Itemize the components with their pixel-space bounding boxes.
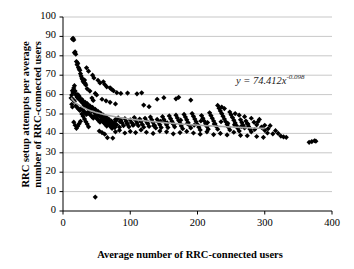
data-point <box>146 104 151 109</box>
trendline-equation-label: y = 74.412x-0.098 <box>236 73 305 86</box>
data-point <box>161 95 166 100</box>
x-axis-title: Average number of RRC-connected users <box>40 249 340 260</box>
data-point <box>261 135 266 140</box>
y-tick-label: 30 <box>29 146 56 157</box>
data-point <box>177 130 182 135</box>
data-point <box>231 130 236 135</box>
y-tick-label: 50 <box>29 107 56 118</box>
data-point <box>122 130 127 135</box>
data-point <box>245 133 250 138</box>
x-tick-label: 400 <box>314 217 350 228</box>
data-point <box>113 101 118 106</box>
data-point <box>133 130 138 135</box>
data-point <box>141 102 146 107</box>
data-point <box>211 132 216 137</box>
data-point <box>144 130 149 135</box>
data-point <box>171 131 176 136</box>
equation-exponent: -0.098 <box>287 73 305 81</box>
y-tick-label: 40 <box>29 126 56 137</box>
data-point <box>151 131 156 136</box>
y-tick-label: 10 <box>29 185 56 196</box>
data-point <box>191 130 196 135</box>
data-point <box>188 97 193 102</box>
data-point <box>242 114 247 119</box>
data-point <box>110 135 115 140</box>
data-point <box>249 116 254 121</box>
y-tick-label: 70 <box>29 68 56 79</box>
data-point <box>93 194 98 199</box>
scatter-chart: RRC setup attempts per average number of… <box>0 0 354 269</box>
data-point <box>155 97 160 102</box>
x-tick-label: 200 <box>180 217 216 228</box>
y-tick-label: 20 <box>29 165 56 176</box>
y-tick-label: 0 <box>29 204 56 215</box>
y-tick-label: 100 <box>29 10 56 21</box>
x-tick-label: 300 <box>247 217 283 228</box>
equation-base: y = 74.412x <box>236 75 287 86</box>
data-point <box>198 132 203 137</box>
data-point <box>134 91 139 96</box>
data-point <box>254 134 259 139</box>
y-tick-label: 90 <box>29 29 56 40</box>
y-tick-label: 80 <box>29 49 56 60</box>
data-point <box>218 131 223 136</box>
x-tick-label: 0 <box>45 217 81 228</box>
data-point <box>118 91 123 96</box>
x-tick-label: 100 <box>112 217 148 228</box>
y-tick-label: 60 <box>29 88 56 99</box>
